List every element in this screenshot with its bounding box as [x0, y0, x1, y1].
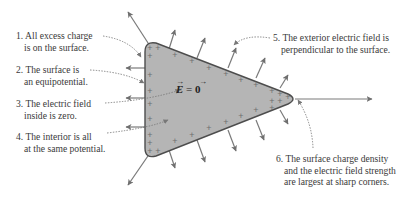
svg-text:+: + — [238, 75, 243, 85]
svg-text:+: + — [155, 43, 160, 53]
svg-text:+: + — [172, 136, 177, 146]
svg-text:+: + — [253, 105, 258, 115]
leader-6 — [298, 100, 313, 148]
vector-arrow-icon: → — [199, 77, 207, 86]
svg-text:+: + — [155, 146, 160, 156]
svg-text:+: + — [277, 96, 282, 106]
svg-text:+: + — [238, 111, 243, 121]
leader-5 — [234, 37, 270, 45]
svg-text:+: + — [147, 51, 152, 61]
svg-text:+: + — [269, 86, 274, 96]
annotation-4: 4. The interior is all at the same poten… — [16, 131, 106, 154]
svg-text:+: + — [269, 103, 274, 113]
svg-text:+: + — [285, 92, 290, 102]
field-arrow-corner-top-left — [128, 12, 150, 46]
leader-2 — [90, 70, 144, 83]
annotation-6: 6. The surface charge density and the el… — [276, 153, 396, 188]
svg-text:+: + — [147, 86, 152, 96]
center-equation: E = 0 → → — [176, 83, 201, 95]
svg-text:+: + — [223, 117, 228, 127]
annotation-2: 2. The surface is an equipotential. — [16, 64, 88, 87]
svg-text:+: + — [147, 114, 152, 124]
vector-arrow-icon: → — [176, 77, 184, 86]
svg-text:+: + — [147, 70, 152, 80]
svg-text:+: + — [206, 123, 211, 133]
field-arrow-corner-bottom-left — [128, 153, 150, 185]
annotation-1: 1. All excess charge is on the surface. — [16, 30, 93, 53]
svg-text:+: + — [206, 63, 211, 73]
svg-text:+: + — [223, 69, 228, 79]
svg-text:+: + — [147, 146, 152, 156]
svg-text:+: + — [189, 130, 194, 140]
leader-1 — [103, 36, 141, 57]
annotation-3: 3. The electric field inside is zero. — [16, 98, 91, 121]
svg-text:+: + — [172, 50, 177, 60]
svg-text:+: + — [253, 80, 258, 90]
svg-text:+: + — [189, 56, 194, 66]
svg-text:+: + — [147, 99, 152, 109]
annotation-5: 5. The exterior electric field is perpen… — [273, 32, 390, 55]
